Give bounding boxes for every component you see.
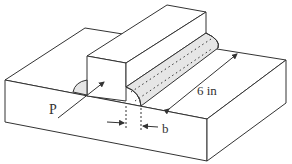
- length-label: 6 in: [197, 83, 217, 98]
- force-label: P: [49, 102, 57, 117]
- weld-diagram: P 6 in b: [0, 0, 292, 164]
- weld-size-label: b: [162, 121, 169, 136]
